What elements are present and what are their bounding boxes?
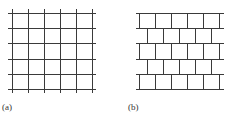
- diagram-canvas: [0, 0, 232, 120]
- square-grid-diagram: [8, 9, 96, 93]
- figure-b-label: (b): [128, 103, 139, 112]
- brick-pattern-diagram: [136, 13, 224, 90]
- figure-a-label: (a): [2, 103, 12, 112]
